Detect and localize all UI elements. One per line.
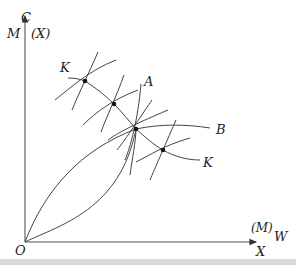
tangency-point [134, 127, 139, 132]
tangency-point [83, 79, 88, 84]
curve-a [25, 129, 136, 242]
contract-curve-label-start: K [59, 60, 71, 75]
curve-b-label: B [215, 122, 226, 137]
curve-a-label: A [143, 74, 153, 89]
bottom-border [0, 259, 296, 265]
y-axis-label-x: (X) [31, 26, 50, 41]
x-axis-label-w: W [274, 229, 289, 244]
y-axis-label-m: M [6, 26, 21, 41]
x-axis-label-m: (M) [251, 221, 273, 235]
tangency-point [112, 102, 117, 107]
edgeworth-diagram: C M (X) (M) W X O K A B K [0, 0, 296, 265]
y-axis-label-c: C [21, 10, 31, 25]
curve-b [25, 129, 136, 242]
origin-label: O [15, 243, 26, 258]
indiff-curve [125, 84, 141, 160]
indiff-curve [108, 110, 168, 140]
contract-curve-label-end: K [202, 155, 214, 170]
x-axis-label-x: X [255, 244, 266, 259]
tangency-point [161, 148, 166, 153]
